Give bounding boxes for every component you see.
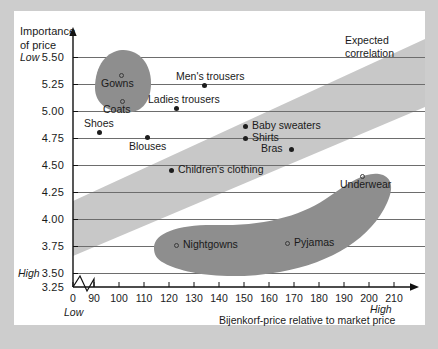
label-underwear: Underwear (340, 178, 391, 190)
x-tick-130: 130 (181, 292, 207, 304)
x-tick-110: 110 (131, 292, 157, 304)
x-tick-120: 120 (156, 292, 182, 304)
x-tick-170: 170 (281, 292, 307, 304)
x-tick-150: 150 (231, 292, 257, 304)
x-tick-140: 140 (206, 292, 232, 304)
x-tick-100: 100 (106, 292, 132, 304)
y-tick-325: 3.25 (26, 281, 64, 293)
label-baby-sweaters: Baby sweaters (252, 119, 321, 131)
x-axis-title: Bijenkorf-price relative to market price (219, 314, 395, 326)
label-coats: Coats (103, 103, 130, 115)
label-ladies-trousers: Ladies trousers (148, 93, 220, 105)
marker-nightgowns[interactable] (174, 243, 179, 248)
marker-ladies-trousers[interactable] (174, 106, 179, 111)
x-tick-180: 180 (306, 292, 332, 304)
label-bras: Bras (261, 142, 283, 154)
x-tick-190: 190 (331, 292, 357, 304)
y-tick-475: 4.75 (26, 132, 64, 144)
label-nightgowns: Nightgowns (183, 238, 238, 250)
expected-correlation-annotation-line2: correlation (345, 47, 394, 59)
label-pyjamas: Pyjamas (294, 236, 334, 248)
y-tick-500: 5.00 (26, 105, 64, 117)
y-tick-525: 5.25 (26, 78, 64, 90)
marker-shoes[interactable] (97, 130, 102, 135)
x-axis-ticks (73, 282, 394, 287)
x-axis-low-label: Low (64, 306, 83, 318)
y-axis-title-line1: Importance (20, 25, 75, 37)
y-tick-450: 4.50 (26, 159, 64, 171)
expected-correlation-annotation-line1: Expected (345, 34, 389, 46)
marker-bras[interactable] (289, 147, 294, 152)
x-tick-160: 160 (256, 292, 282, 304)
x-tick-90: 90 (81, 292, 107, 304)
marker-shirts[interactable] (243, 136, 248, 141)
marker-mens-trousers[interactable] (202, 83, 207, 88)
label-shoes: Shoes (84, 117, 114, 129)
marker-baby-sweaters[interactable] (243, 124, 248, 129)
page-background: Importance of price Low High 5.50 5.25 5… (0, 0, 438, 349)
y-tick-400: 4.00 (26, 213, 64, 225)
y-tick-375: 3.75 (26, 240, 64, 252)
y-axis-title-line2: of price (20, 39, 56, 51)
label-gowns: Gowns (101, 77, 134, 89)
y-tick-550: 5.50 (26, 51, 64, 63)
y-tick-425: 4.25 (26, 186, 64, 198)
marker-pyjamas[interactable] (285, 241, 290, 246)
chart-panel: Importance of price Low High 5.50 5.25 5… (14, 11, 425, 325)
label-childrens-clothing: Children's clothing (178, 163, 263, 175)
label-mens-trousers: Men's trousers (176, 70, 245, 82)
marker-childrens-clothing[interactable] (169, 168, 174, 173)
y-tick-350: 3.50 (26, 267, 64, 279)
label-blouses: Blouses (129, 140, 166, 152)
